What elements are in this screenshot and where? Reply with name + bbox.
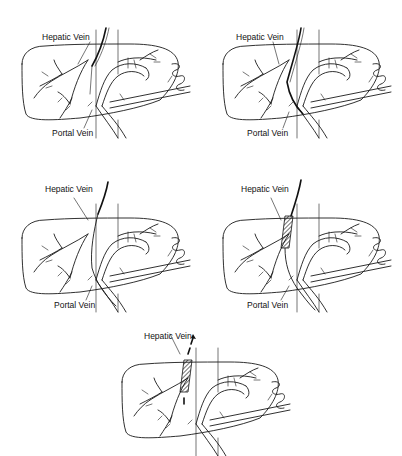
label-portal-vein-d: Portal Vein [247,301,288,310]
panel-a: Hepatic Vein Portal Vein [0,2,201,138]
panel-e: Hepatic Vein [100,320,301,456]
label-hepatic-vein-e: Hepatic Vein [144,332,192,341]
label-portal-vein-c: Portal Vein [54,301,95,310]
liver-diagram-a [0,2,201,138]
label-portal-vein-a: Portal Vein [52,129,93,138]
label-hepatic-vein-c: Hepatic Vein [45,185,93,194]
stent-icon [180,360,192,392]
label-hepatic-vein-a: Hepatic Vein [42,33,90,42]
label-hepatic-vein-b: Hepatic Vein [236,33,284,42]
liver-diagram-b [201,2,402,138]
stent-icon [281,216,293,248]
panel-c: Hepatic Vein Portal Vein [0,176,201,312]
label-hepatic-vein-d: Hepatic Vein [241,185,289,194]
liver-diagram-c [0,176,201,312]
label-portal-vein-b: Portal Vein [247,129,288,138]
liver-diagram-e [100,320,301,456]
panel-b: Hepatic Vein Portal Vein [201,2,402,138]
liver-diagram-d [201,176,402,312]
panel-d: Hepatic Vein Portal Vein [201,176,402,312]
